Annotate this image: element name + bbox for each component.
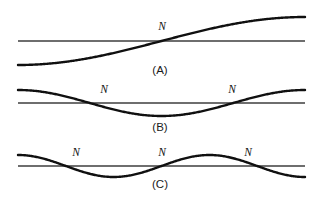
- wave-panel-c: NNN(C): [18, 146, 305, 190]
- standing-wave-figure: N(A)NN(B)NNN(C): [0, 0, 316, 197]
- wave-panel-a: N(A): [18, 17, 305, 76]
- panels-group: N(A)NN(B)NNN(C): [18, 17, 305, 190]
- node-label: N: [243, 146, 253, 158]
- node-label: N: [157, 146, 167, 158]
- node-label: N: [99, 83, 109, 95]
- panel-caption: (A): [152, 64, 168, 76]
- node-label: N: [227, 83, 237, 95]
- figure-canvas: N(A)NN(B)NNN(C): [0, 0, 316, 197]
- wave-panel-b: NN(B): [18, 83, 305, 133]
- panel-caption: (C): [152, 178, 168, 190]
- node-label: N: [157, 20, 167, 32]
- node-label: N: [71, 146, 81, 158]
- panel-caption: (B): [152, 121, 168, 133]
